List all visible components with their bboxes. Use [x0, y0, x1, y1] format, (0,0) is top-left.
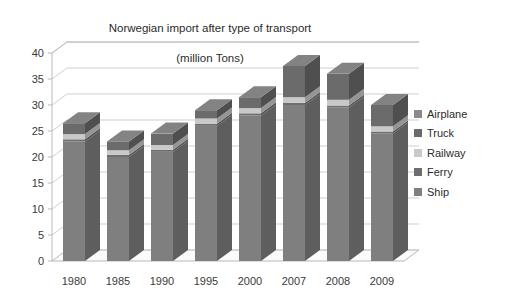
y-axis-tick-marks [48, 53, 52, 261]
legend-swatch-icon [414, 149, 422, 157]
legend-item: Ship [414, 182, 502, 202]
bar-column [239, 86, 276, 261]
legend-item: Airplane [414, 104, 502, 124]
x-axis-tick-label: 1985 [106, 275, 130, 287]
legend-swatch-icon [414, 168, 422, 176]
y-axis-tick-labels: 0510152025303540 [32, 47, 44, 267]
legend-item-label: Ferry [427, 166, 453, 178]
y-axis-tick-label: 5 [38, 229, 44, 241]
chart-legend: Airplane Truck Railway Ferry Ship [414, 104, 502, 202]
x-axis-tick-label: 2008 [326, 275, 350, 287]
legend-item: Railway [414, 143, 502, 163]
x-axis-tick-label: 1990 [150, 275, 174, 287]
x-axis-tick-label: 2007 [282, 275, 306, 287]
y-axis-tick-label: 20 [32, 151, 44, 163]
legend-item-label: Ship [427, 186, 449, 198]
bar-column [151, 123, 188, 261]
legend-item: Truck [414, 124, 502, 144]
x-axis-tick-label: 2000 [238, 275, 262, 287]
bar-group [63, 55, 408, 261]
bar-column [283, 55, 320, 261]
x-axis-tick-labels: 19801985199019952000200720082009 [62, 275, 394, 287]
y-axis-tick-label: 25 [32, 125, 44, 137]
y-axis-tick-label: 15 [32, 177, 44, 189]
y-axis-tick-label: 0 [38, 255, 44, 267]
bar-column [371, 94, 408, 261]
legend-swatch-icon [414, 188, 422, 196]
x-axis-tick-label: 2009 [370, 275, 394, 287]
legend-item-label: Railway [427, 147, 466, 159]
chart-container: Norwegian import after type of transport… [0, 0, 505, 299]
y-axis-tick-label: 35 [32, 73, 44, 85]
legend-item-label: Truck [427, 127, 454, 139]
y-axis-tick-label: 10 [32, 203, 44, 215]
x-axis-tick-label: 1980 [62, 275, 86, 287]
bar-column [107, 130, 144, 261]
bar-column [63, 112, 100, 261]
legend-swatch-icon [414, 110, 422, 118]
x-axis-tick-label: 1995 [194, 275, 218, 287]
legend-item-label: Airplane [427, 108, 467, 120]
y-axis-tick-label: 40 [32, 47, 44, 59]
legend-swatch-icon [414, 129, 422, 137]
y-axis-tick-label: 30 [32, 99, 44, 111]
bar-column [327, 63, 364, 261]
legend-item: Ferry [414, 163, 502, 183]
bar-column [195, 99, 232, 261]
